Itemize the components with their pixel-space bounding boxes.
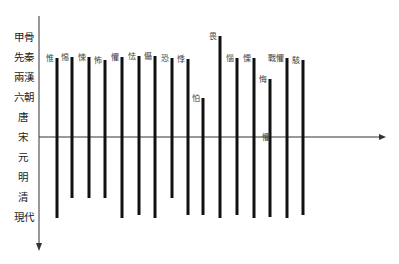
bar-label: 駭 xyxy=(292,55,300,65)
bar-label: 悸 xyxy=(177,54,185,64)
bar-label: 惟 xyxy=(46,53,54,63)
y-axis-arrow-icon xyxy=(36,243,42,251)
y-axis-labels: 甲骨先秦兩漢六朝唐宋元明清現代 xyxy=(14,31,35,223)
y-label: 元 xyxy=(18,151,29,163)
y-label: 兩漢 xyxy=(14,71,35,83)
bar-label: 惕 xyxy=(61,52,69,62)
axis-annotation: 懼 xyxy=(262,132,270,142)
bar-label: 恐 xyxy=(161,54,169,63)
bar-label: 懾 xyxy=(144,51,152,61)
y-label: 明 xyxy=(18,171,28,183)
period-chart: 甲骨先秦兩漢六朝唐宋元明清現代 惟惕悚怖懼怯懾恐悸怕畏惱慄悔戰懼駭 懼 xyxy=(0,0,399,264)
bar-label: 懼 xyxy=(111,52,119,62)
bar-label: 怯 xyxy=(128,51,136,61)
bar-label: 惱 xyxy=(226,53,234,63)
bar-label: 戰懼 xyxy=(268,53,284,63)
bar-label: 畏 xyxy=(209,32,217,41)
y-label: 六朝 xyxy=(14,91,34,103)
y-label: 宋 xyxy=(18,131,29,143)
y-axis xyxy=(36,16,42,251)
bar-label: 悚 xyxy=(78,52,86,62)
x-axis-arrow-icon xyxy=(379,134,386,140)
y-label: 清 xyxy=(18,191,28,203)
x-axis xyxy=(39,134,386,140)
bar-label: 悔 xyxy=(259,74,267,84)
bar-label: 慄 xyxy=(243,53,251,63)
y-label: 先秦 xyxy=(14,51,35,63)
y-label: 甲骨 xyxy=(14,31,34,43)
bar-label: 怖 xyxy=(94,55,102,65)
y-label: 唐 xyxy=(18,111,28,123)
y-label: 現代 xyxy=(14,211,35,223)
bar-label: 怕 xyxy=(192,93,200,103)
